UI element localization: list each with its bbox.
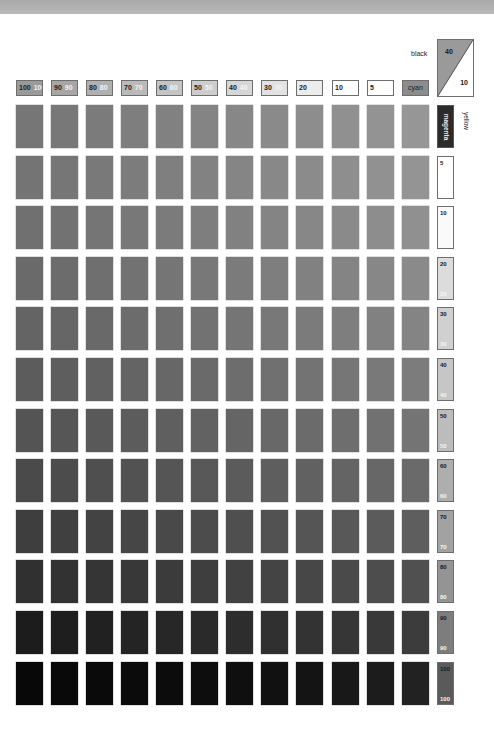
swatch-r1-c5 [156,105,183,148]
swatch-r6-c11 [367,358,394,401]
swatch-r4-c3 [86,257,113,300]
swatch-r12-c6 [191,662,218,705]
swatch-r1-c7 [226,105,253,148]
swatch-r1-c8 [261,105,288,148]
row-header-60: 6060 [437,459,454,502]
column-header-80: 8080 [86,80,113,96]
swatch-r5-c4 [121,307,148,350]
corner-second-value: 10 [460,79,468,86]
swatch-r6-c12 [402,358,429,401]
swatch-r6-c9 [296,358,323,401]
swatch-r12-c11 [367,662,394,705]
swatch-r1-c3 [86,105,113,148]
swatch-r12-c4 [121,662,148,705]
swatch-r8-c12 [402,459,429,502]
swatch-r10-c11 [367,560,394,603]
swatch-r2-c5 [156,156,183,199]
column-header-60: 6060 [156,80,183,96]
row-header-40: 4040 [437,358,454,401]
swatch-r10-c6 [191,560,218,603]
swatch-r9-c7 [226,510,253,553]
swatch-r9-c11 [367,510,394,553]
swatch-r6-c8 [261,358,288,401]
row-header-70: 7070 [437,510,454,553]
swatch-r5-c7 [226,307,253,350]
swatch-r5-c11 [367,307,394,350]
swatch-r8-c9 [296,459,323,502]
swatch-r5-c12 [402,307,429,350]
swatch-r12-c5 [156,662,183,705]
swatch-r4-c4 [121,257,148,300]
swatch-r6-c5 [156,358,183,401]
swatch-r9-c8 [261,510,288,553]
swatch-r3-c6 [191,206,218,249]
swatch-r1-c1 [16,105,43,148]
swatch-r11-c11 [367,611,394,654]
swatch-r5-c5 [156,307,183,350]
swatch-r3-c4 [121,206,148,249]
swatch-r4-c5 [156,257,183,300]
row-header-10: 10 [437,206,454,249]
swatch-r5-c8 [261,307,288,350]
swatch-r8-c11 [367,459,394,502]
swatch-r8-c3 [86,459,113,502]
swatch-r3-c7 [226,206,253,249]
swatch-r3-c9 [296,206,323,249]
swatch-r3-c8 [261,206,288,249]
swatch-r12-c10 [332,662,359,705]
swatch-r8-c2 [51,459,78,502]
swatch-r4-c12 [402,257,429,300]
swatch-r2-c6 [191,156,218,199]
column-header-20: 20 [296,80,323,96]
swatch-r6-c6 [191,358,218,401]
swatch-r9-c9 [296,510,323,553]
swatch-r10-c2 [51,560,78,603]
corner-key-swatch: 40 10 [437,39,474,97]
swatch-r2-c1 [16,156,43,199]
diagonal-split-icon [438,40,474,97]
black-label: black [411,50,427,57]
row-header-80: 8080 [437,560,454,603]
swatch-r7-c1 [16,409,43,452]
swatch-r2-c10 [332,156,359,199]
swatch-r5-c10 [332,307,359,350]
magenta-row-header: magenta [437,105,454,148]
swatch-r2-c2 [51,156,78,199]
swatch-r11-c10 [332,611,359,654]
swatch-r3-c12 [402,206,429,249]
swatch-r6-c1 [16,358,43,401]
column-header-5: 5 [367,80,394,96]
swatch-r4-c2 [51,257,78,300]
swatch-r6-c3 [86,358,113,401]
swatch-r12-c3 [86,662,113,705]
swatch-r3-c10 [332,206,359,249]
swatch-r9-c2 [51,510,78,553]
swatch-r4-c9 [296,257,323,300]
swatch-r5-c3 [86,307,113,350]
row-header-20: 2020 [437,257,454,300]
swatch-r2-c7 [226,156,253,199]
row-header-90: 9090 [437,611,454,654]
swatch-r9-c10 [332,510,359,553]
swatch-r3-c5 [156,206,183,249]
swatch-r7-c3 [86,409,113,452]
yellow-axis-label: yellow [463,112,470,130]
swatch-r6-c2 [51,358,78,401]
swatch-r7-c12 [402,409,429,452]
swatch-r6-c7 [226,358,253,401]
swatch-r2-c3 [86,156,113,199]
swatch-r5-c9 [296,307,323,350]
swatch-r1-c2 [51,105,78,148]
swatch-r9-c3 [86,510,113,553]
swatch-r7-c10 [332,409,359,452]
swatch-r1-c10 [332,105,359,148]
column-header-30: 3030 [261,80,288,96]
swatch-r4-c7 [226,257,253,300]
swatch-r4-c10 [332,257,359,300]
swatch-r7-c8 [261,409,288,452]
swatch-r3-c11 [367,206,394,249]
swatch-r10-c12 [402,560,429,603]
swatch-r10-c1 [16,560,43,603]
swatch-r12-c9 [296,662,323,705]
column-header-40: 4040 [226,80,253,96]
